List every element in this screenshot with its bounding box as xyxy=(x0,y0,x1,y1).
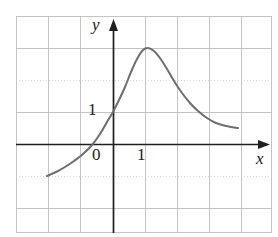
y-axis-label: y xyxy=(92,16,100,33)
x-axis-tick-label-1: 1 xyxy=(137,146,146,163)
y-axis-tick-label-1: 1 xyxy=(88,101,97,118)
origin-tick-label-0: 0 xyxy=(92,146,101,163)
plot-canvas xyxy=(0,0,278,237)
graph-figure: y x 1 0 1 xyxy=(0,0,278,237)
x-axis-label: x xyxy=(256,150,264,167)
